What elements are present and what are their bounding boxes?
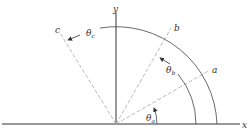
line-a-label: a [212, 65, 217, 75]
line-c [60, 33, 116, 124]
theta-c-label: θc [86, 28, 95, 39]
arrow-theta-c [68, 35, 80, 40]
y-axis-label: y [112, 4, 119, 14]
line-b [116, 28, 171, 124]
line-c-label: c [55, 25, 60, 35]
theta-a-label: θa [146, 113, 155, 124]
angle-diagram: x y a b c θa θb θc [0, 0, 249, 131]
line-b-label: b [174, 23, 180, 33]
arrow-theta-b [160, 58, 170, 64]
x-axis-label: x [242, 120, 247, 130]
theta-b-label: θb [166, 65, 175, 76]
arc-theta-c [100, 27, 217, 124]
arc-theta-b [178, 74, 196, 124]
